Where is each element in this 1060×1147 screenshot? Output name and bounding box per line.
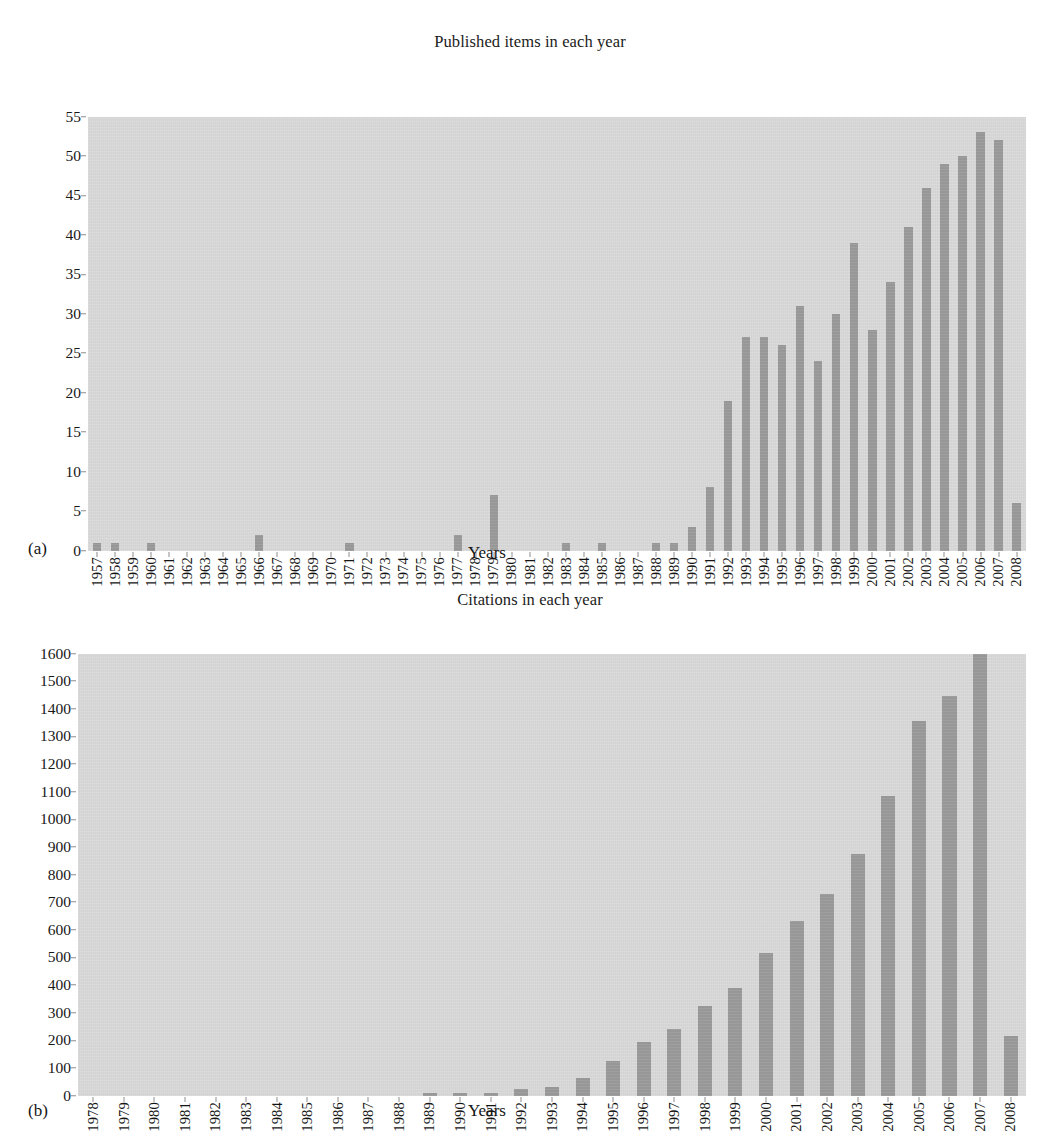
bar-slot (106, 117, 124, 551)
x-tick-mark (643, 1097, 644, 1102)
x-tick-mark (367, 552, 368, 557)
bar-slot (261, 654, 292, 1096)
bar (904, 227, 912, 551)
bar-slot (506, 654, 537, 1096)
y-tick-label: 1600 (40, 646, 71, 662)
chart-b-plot-area (78, 654, 1026, 1096)
x-tick-mark (439, 552, 440, 557)
bar (345, 543, 353, 551)
bar-slot (170, 654, 201, 1096)
bar-slot (539, 117, 557, 551)
y-tick-mark (71, 791, 76, 792)
x-tick: 1998 (690, 1102, 721, 1132)
bar-slot (628, 654, 659, 1096)
x-tick-mark (980, 1097, 981, 1102)
bar-slot (611, 117, 629, 551)
x-tick-mark (399, 1097, 400, 1102)
bar (942, 696, 956, 1095)
bar-slot (431, 117, 449, 551)
x-tick-mark (307, 1097, 308, 1102)
x-tick-mark (169, 552, 170, 557)
bar-slot (200, 654, 231, 1096)
y-tick-label: 600 (48, 922, 71, 938)
bar (922, 188, 930, 551)
y-tick-label: 20 (66, 385, 82, 401)
bar-slot (286, 117, 304, 551)
y-tick-mark (71, 846, 76, 847)
y-tick-mark (81, 116, 86, 117)
bar (868, 330, 876, 551)
x-tick-label: 1988 (392, 1102, 407, 1132)
x-tick: 2005 (904, 1102, 935, 1132)
y-tick-mark (71, 681, 76, 682)
x-tick: 1980 (139, 1102, 170, 1132)
x-tick-mark (187, 552, 188, 557)
chart-a-bars (88, 117, 1026, 551)
y-tick-label: 1400 (40, 701, 71, 717)
x-tick-mark (133, 552, 134, 557)
bar (940, 164, 948, 551)
bar-slot (567, 654, 598, 1096)
y-tick-mark (71, 736, 76, 737)
x-tick: 1999 (720, 1102, 751, 1132)
x-tick: 2003 (842, 1102, 873, 1132)
chart-b-x-axis: 1978197919801981198219831984198519861987… (78, 1102, 1026, 1132)
x-tick-mark (872, 552, 873, 557)
y-tick-label: 5 (73, 503, 81, 519)
y-tick-label: 30 (66, 306, 82, 322)
bar-slot (445, 654, 476, 1096)
bar-slot (521, 117, 539, 551)
x-tick-label: 1999 (728, 1102, 743, 1132)
x-tick-mark (980, 552, 981, 557)
bar-slot (845, 117, 863, 551)
x-tick: 2001 (781, 1102, 812, 1132)
bar-slot (791, 117, 809, 551)
bar (670, 543, 678, 551)
bar (652, 543, 660, 551)
x-tick-mark (836, 552, 837, 557)
x-tick-label: 1982 (208, 1102, 223, 1132)
x-tick-label: 1989 (422, 1102, 437, 1132)
x-tick-label: 2003 (850, 1102, 865, 1132)
y-tick-label: 1100 (41, 784, 71, 800)
chart-a-plot-area (88, 117, 1026, 551)
y-tick-mark (71, 1040, 76, 1041)
x-tick: 2000 (751, 1102, 782, 1132)
bar (606, 1061, 620, 1096)
x-tick-mark (674, 1097, 675, 1102)
x-tick-mark (583, 552, 584, 557)
x-tick-mark (241, 552, 242, 557)
x-tick-mark (710, 552, 711, 557)
x-tick-mark (918, 1097, 919, 1102)
x-tick-mark (429, 1097, 430, 1102)
x-tick: 2006 (934, 1102, 965, 1132)
x-tick-label: 1981 (178, 1102, 193, 1132)
bar-slot (659, 654, 690, 1096)
y-tick-label: 15 (66, 424, 82, 440)
bar-slot (467, 117, 485, 551)
bar (973, 654, 987, 1096)
x-tick: 1993 (537, 1102, 568, 1132)
x-tick-mark (949, 1097, 950, 1102)
y-tick-label: 700 (48, 894, 71, 910)
bar-slot (322, 117, 340, 551)
x-tick-mark (827, 1097, 828, 1102)
y-tick-mark (81, 432, 86, 433)
bar (912, 721, 926, 1095)
bar-slot (665, 117, 683, 551)
bar (667, 1029, 681, 1095)
x-tick-label: 1984 (270, 1102, 285, 1132)
x-tick-mark (259, 552, 260, 557)
x-tick: 2008 (995, 1102, 1026, 1132)
x-tick-mark (704, 1097, 705, 1102)
bar-slot (340, 117, 358, 551)
bar (724, 401, 732, 551)
bar-slot (904, 654, 935, 1096)
y-tick-mark (81, 353, 86, 354)
bar-slot (537, 654, 568, 1096)
x-tick-mark (403, 552, 404, 557)
y-tick-mark (71, 1095, 76, 1096)
y-tick-mark (71, 1067, 76, 1068)
x-tick: 1984 (261, 1102, 292, 1132)
chart-a-panel-letter: (a) (28, 540, 47, 557)
